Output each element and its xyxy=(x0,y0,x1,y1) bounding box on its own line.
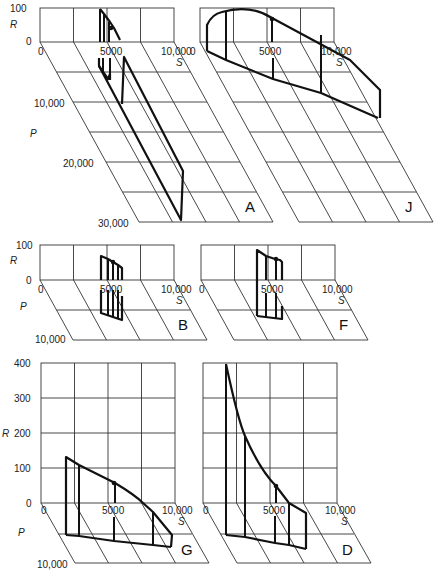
panel-g: 400 300 R 200 100 0 0 5000 10,000 S P 10… xyxy=(2,358,209,570)
s-tick-5000: 5000 xyxy=(263,505,286,516)
s-tick-10000: 10,000 xyxy=(161,284,192,295)
r-tick-0: 0 xyxy=(26,36,32,47)
s-tick-5000: 5000 xyxy=(259,46,282,57)
s-tick-10000: 10,000 xyxy=(162,505,193,516)
panel-letter-g: G xyxy=(181,541,193,558)
p-tick-20000: 20,000 xyxy=(63,158,94,169)
s-tick-10000: 10,000 xyxy=(325,505,356,516)
s-tick-5000: 5000 xyxy=(261,284,284,295)
panel-letter-b: B xyxy=(178,316,188,333)
s-tick-0: 0 xyxy=(203,505,209,516)
panel-letter-d: D xyxy=(342,541,353,558)
s-axis-label: S xyxy=(176,295,183,306)
r-tick-400: 400 xyxy=(14,358,31,369)
r-tick-200: 200 xyxy=(14,428,31,439)
panel-d: 0 5000 10,000 S D xyxy=(203,363,371,563)
p-axis-label: P xyxy=(30,128,37,139)
r-axis-label: R xyxy=(10,255,17,266)
r-tick-300: 300 xyxy=(14,393,31,404)
r-tick-0: 0 xyxy=(26,498,32,509)
p-tick-10000: 10,000 xyxy=(35,334,66,345)
r-tick-0: 0 xyxy=(26,275,32,286)
s-tick-5000: 5000 xyxy=(100,284,123,295)
p-axis-label: P xyxy=(20,301,27,312)
p-tick-30000: 30,000 xyxy=(98,218,129,229)
panel-letter-a: A xyxy=(245,198,255,215)
r-tick-100: 100 xyxy=(14,463,31,474)
s-tick-10000: 10,000 xyxy=(161,46,192,57)
s-tick-10000: 10,000 xyxy=(322,284,353,295)
panel-letter-f: F xyxy=(339,316,348,333)
p-tick-10000: 10,000 xyxy=(37,559,68,570)
s-tick-0: 0 xyxy=(41,505,47,516)
s-axis-label: S xyxy=(178,516,185,527)
s-axis-label: S xyxy=(176,57,183,68)
figure-canvas: 100 R 0 0 5000 10,000 S 10,000 P 20,000 … xyxy=(0,0,437,572)
s-tick-0: 0 xyxy=(190,46,196,57)
r-tick-100: 100 xyxy=(10,3,27,14)
r-axis-label: R xyxy=(10,19,17,30)
panel-b: 100 R 0 0 5000 10,000 S P 10,000 B xyxy=(10,240,207,345)
panel-f: 0 5000 10,000 S F xyxy=(199,245,368,340)
s-axis-label: S xyxy=(338,295,345,306)
p-tick-10000: 10,000 xyxy=(34,98,65,109)
s-tick-0: 0 xyxy=(199,284,205,295)
p-axis-label: P xyxy=(18,527,25,538)
s-axis-label: S xyxy=(341,516,348,527)
panel-letter-j: J xyxy=(405,198,413,215)
s-tick-0: 0 xyxy=(38,46,44,57)
s-axis-label: S xyxy=(336,57,343,68)
s-tick-5000: 5000 xyxy=(102,505,125,516)
s-tick-10000: 10,000 xyxy=(321,46,352,57)
s-tick-5000: 5000 xyxy=(100,46,123,57)
s-tick-0: 0 xyxy=(38,284,44,295)
r-axis-label: R xyxy=(2,428,9,439)
panel-j: 0 5000 10,000 S J xyxy=(190,8,433,222)
r-tick-100: 100 xyxy=(16,240,33,251)
